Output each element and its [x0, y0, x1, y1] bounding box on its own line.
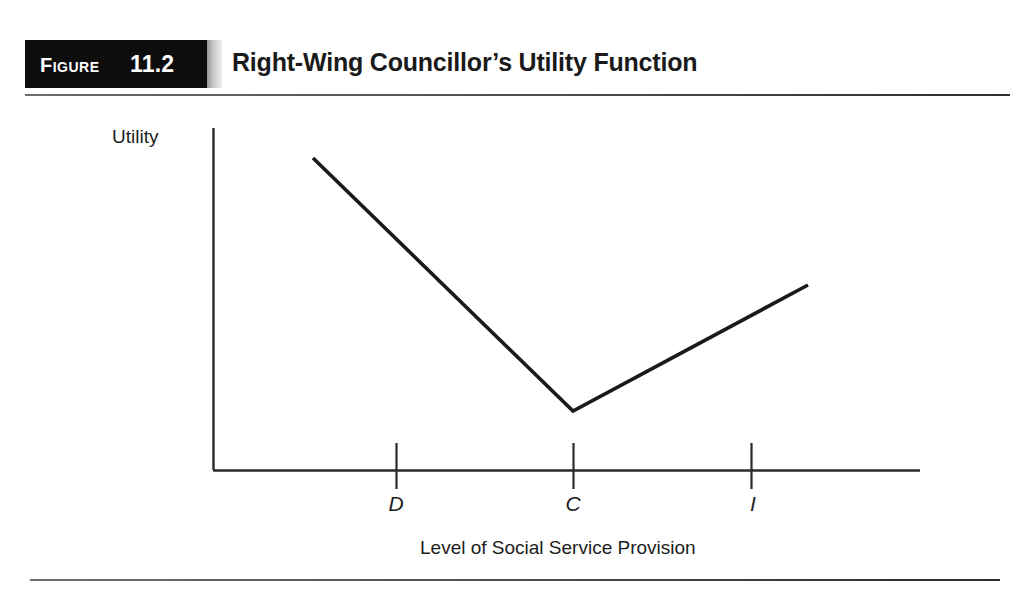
x-axis-label: Level of Social Service Provision	[420, 537, 696, 559]
x-axis-tick-label-I: I	[738, 492, 768, 516]
utility-function-curve	[313, 158, 808, 411]
figure-page: Figure 11.2 Right-Wing Councillor’s Util…	[0, 0, 1035, 599]
y-axis-label: Utility	[112, 126, 158, 148]
x-axis-tick-label-C: C	[558, 492, 588, 516]
x-axis-tick-label-D: D	[381, 492, 411, 516]
chart-canvas	[0, 0, 1035, 599]
chart-plot-area: Utility D C I Level of Social Service Pr…	[0, 0, 1035, 599]
footer-divider-rule	[30, 579, 1000, 581]
